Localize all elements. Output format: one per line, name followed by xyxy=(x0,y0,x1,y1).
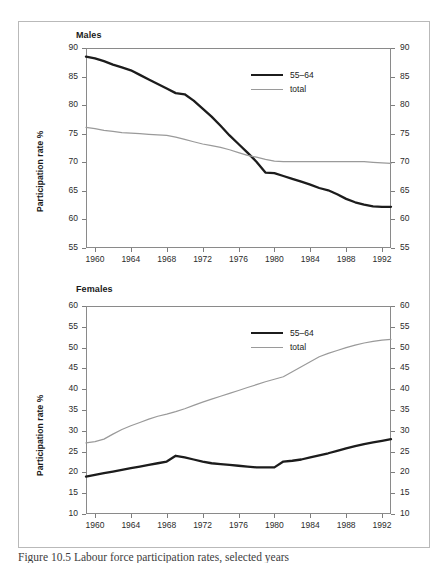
x-tick-mark xyxy=(310,514,311,518)
series-line-total xyxy=(86,339,391,443)
y-tick-mark xyxy=(82,191,86,192)
y-tick-label: 25 xyxy=(400,446,422,456)
chart-panel-males: Males Participation rate % 5560657075808… xyxy=(19,30,431,282)
y-tick-label: 20 xyxy=(56,466,78,476)
y-tick-label: 35 xyxy=(400,404,422,414)
x-tick-mark xyxy=(95,248,96,252)
y-axis-title-females: Participation rate % xyxy=(35,395,45,476)
x-tick-mark xyxy=(274,248,275,252)
y-tick-mark xyxy=(82,410,86,411)
y-tick-label: 55 xyxy=(400,321,422,331)
y-tick-label: 90 xyxy=(400,42,422,52)
x-tick-label: 1992 xyxy=(365,520,399,530)
x-tick-label: 1976 xyxy=(222,520,256,530)
y-tick-label: 10 xyxy=(400,508,422,518)
legend-swatch-5564-icon xyxy=(251,332,283,334)
x-tick-mark xyxy=(131,514,132,518)
y-tick-mark xyxy=(82,472,86,473)
y-tick-label: 60 xyxy=(400,213,422,223)
x-tick-mark xyxy=(310,248,311,252)
y-tick-label: 45 xyxy=(56,362,78,372)
x-tick-mark xyxy=(95,514,96,518)
y-tick-label: 60 xyxy=(400,300,422,310)
x-tick-mark xyxy=(274,514,275,518)
y-tick-label: 70 xyxy=(400,156,422,166)
x-tick-mark xyxy=(167,514,168,518)
x-tick-label: 1972 xyxy=(186,254,220,264)
series-lines-females xyxy=(86,306,391,514)
x-tick-label: 1960 xyxy=(78,254,112,264)
y-tick-label: 65 xyxy=(400,185,422,195)
legend-item-total: total xyxy=(251,340,314,354)
y-tick-label: 25 xyxy=(56,446,78,456)
y-tick-label: 85 xyxy=(56,71,78,81)
x-tick-label: 1984 xyxy=(293,254,327,264)
x-tick-label: 1968 xyxy=(150,254,184,264)
legend-swatch-total-icon xyxy=(251,347,283,348)
y-tick-mark xyxy=(82,452,86,453)
y-tick-label: 60 xyxy=(56,213,78,223)
y-tick-mark xyxy=(391,348,395,349)
y-tick-label: 75 xyxy=(56,128,78,138)
y-tick-label: 80 xyxy=(400,99,422,109)
y-tick-label: 70 xyxy=(56,156,78,166)
y-tick-label: 30 xyxy=(400,425,422,435)
y-tick-mark xyxy=(391,410,395,411)
y-tick-mark xyxy=(82,162,86,163)
y-tick-mark xyxy=(391,327,395,328)
y-tick-mark xyxy=(82,306,86,307)
x-tick-label: 1968 xyxy=(150,520,184,530)
legend-item-total: total xyxy=(251,82,314,96)
y-tick-mark xyxy=(391,452,395,453)
y-tick-mark xyxy=(391,431,395,432)
x-tick-mark xyxy=(203,248,204,252)
x-tick-mark xyxy=(346,514,347,518)
y-tick-label: 75 xyxy=(400,128,422,138)
x-tick-label: 1988 xyxy=(329,520,363,530)
y-tick-label: 60 xyxy=(56,300,78,310)
y-tick-mark xyxy=(391,306,395,307)
y-tick-label: 55 xyxy=(56,321,78,331)
plot-area-males xyxy=(86,48,391,248)
y-tick-label: 50 xyxy=(400,342,422,352)
x-tick-label: 1984 xyxy=(293,520,327,530)
y-tick-label: 45 xyxy=(400,362,422,372)
y-tick-label: 10 xyxy=(56,508,78,518)
y-tick-label: 20 xyxy=(400,466,422,476)
panel-title-males: Males xyxy=(76,30,102,40)
y-tick-mark xyxy=(391,134,395,135)
y-tick-label: 50 xyxy=(56,342,78,352)
y-tick-mark xyxy=(82,348,86,349)
y-tick-label: 85 xyxy=(400,71,422,81)
figure-caption: Figure 10.5 Labour force participation r… xyxy=(18,551,438,563)
y-tick-mark xyxy=(391,493,395,494)
x-tick-mark xyxy=(346,248,347,252)
x-tick-mark xyxy=(382,248,383,252)
legend-females: 55–64 total xyxy=(251,326,314,354)
y-tick-mark xyxy=(82,327,86,328)
legend-swatch-total-icon xyxy=(251,89,283,90)
y-tick-label: 35 xyxy=(56,404,78,414)
chart-panel-females: Females Participation rate % 10152025303… xyxy=(19,284,431,542)
legend-swatch-5564-icon xyxy=(251,74,283,76)
y-tick-label: 30 xyxy=(56,425,78,435)
y-tick-mark xyxy=(82,219,86,220)
legend-item-5564: 55–64 xyxy=(251,68,314,82)
legend-label-total: total xyxy=(290,85,306,94)
y-tick-mark xyxy=(391,77,395,78)
y-tick-mark xyxy=(82,493,86,494)
y-tick-mark xyxy=(391,191,395,192)
y-tick-label: 80 xyxy=(56,99,78,109)
x-tick-label: 1976 xyxy=(222,254,256,264)
y-tick-mark xyxy=(82,48,86,49)
y-tick-mark xyxy=(82,134,86,135)
y-tick-label: 55 xyxy=(400,242,422,252)
y-tick-mark xyxy=(391,219,395,220)
y-tick-mark xyxy=(82,105,86,106)
x-tick-label: 1972 xyxy=(186,520,220,530)
panel-title-females: Females xyxy=(76,284,113,294)
y-tick-mark xyxy=(82,431,86,432)
legend-label-total: total xyxy=(290,343,306,352)
legend-label-5564: 55–64 xyxy=(290,71,314,80)
x-tick-mark xyxy=(203,514,204,518)
